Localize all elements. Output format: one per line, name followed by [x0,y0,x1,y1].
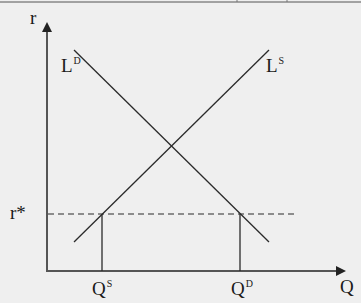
x-axis-label-text: Q [340,276,354,297]
supply-label-base: L [266,55,278,76]
diagram-svg [0,0,361,303]
supply-curve-label: LS [266,56,284,75]
supply-label-sup: S [279,55,285,66]
diagram-canvas: r Q r* LD LS QS QD [0,0,361,303]
qd-label: QD [231,279,253,298]
qd-label-base: Q [231,278,245,299]
qd-label-sup: D [246,278,253,289]
demand-label-base: L [61,55,73,76]
x-axis-arrow-icon [336,266,346,276]
r-star-label-text: r* [10,202,26,223]
y-axis-label: r [30,8,36,27]
qs-label-base: Q [92,278,106,299]
y-axis-arrow-icon [42,22,52,32]
demand-label-sup: D [74,55,81,66]
demand-curve-label: LD [61,56,81,75]
x-axis-label: Q [340,277,354,296]
y-axis-label-text: r [30,7,36,28]
qs-label-sup: S [107,278,113,289]
r-star-label: r* [10,203,26,222]
qs-label: QS [92,279,112,298]
